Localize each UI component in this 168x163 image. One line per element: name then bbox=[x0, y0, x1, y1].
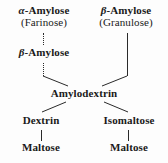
amylose-degradation-diagram: α-Amylose (Farinose) β-Amylose (Granulos… bbox=[0, 0, 168, 163]
diagonal-granulose-to-amylodextrin bbox=[102, 76, 127, 86]
diagonal-connectors-group bbox=[0, 0, 168, 163]
diagonal-beta-amylose-to-amylodextrin bbox=[43, 76, 68, 86]
diagonal-amylodextrin-to-isomaltose bbox=[104, 102, 128, 112]
diagonal-amylodextrin-to-dextrin bbox=[42, 102, 66, 112]
